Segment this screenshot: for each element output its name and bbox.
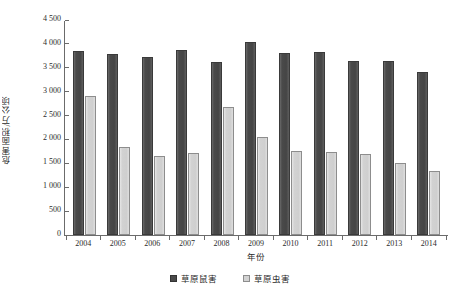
bar-insect-2006[interactable]	[154, 156, 165, 235]
x-axis-tick-label-2010: 2010	[273, 237, 308, 251]
y-axis-tick-label: 1 000	[43, 181, 61, 190]
bar-chart-figure: 危害面积/万公顷 05001 0001 5002 0002 5003 0003 …	[0, 0, 459, 298]
bar-group	[101, 21, 135, 235]
y-axis-tick-label: 4 000	[43, 38, 61, 47]
x-axis-tick-label-2009: 2009	[239, 237, 274, 251]
x-axis-tick-label-2012: 2012	[342, 237, 377, 251]
bar-rodent-2010[interactable]	[279, 53, 290, 236]
y-axis-tick-label: 2 000	[43, 133, 61, 142]
bar-rodent-2009[interactable]	[245, 42, 256, 236]
x-axis-title: 年份	[64, 250, 448, 262]
legend-item-insect[interactable]: 草原虫害	[243, 272, 290, 284]
x-axis-tick-label-2013: 2013	[377, 237, 412, 251]
x-axis-tick-label-2005: 2005	[101, 237, 136, 251]
y-axis-tick-label: 3 000	[43, 86, 61, 95]
bar-groups	[65, 21, 448, 235]
x-axis-tick-label-2007: 2007	[170, 237, 205, 251]
bar-insect-2007[interactable]	[188, 153, 199, 235]
bar-insect-2012[interactable]	[360, 154, 371, 235]
bar-group	[343, 21, 377, 235]
legend-item-rodent[interactable]: 草原鼠害	[170, 272, 217, 284]
x-axis-tick-label-2004: 2004	[66, 237, 101, 251]
bar-group	[377, 21, 411, 235]
y-axis-tick-label: 0	[57, 229, 61, 238]
y-axis-tick-label: 1 500	[43, 157, 61, 166]
plot-area: 05001 0001 5002 0002 5003 0003 5004 0004…	[64, 21, 448, 236]
bar-rodent-2012[interactable]	[348, 61, 359, 235]
bar-insect-2011[interactable]	[326, 152, 337, 235]
chart-legend: 草原鼠害草原虫害	[0, 272, 459, 284]
bar-insect-2004[interactable]	[85, 96, 96, 235]
y-axis-title: 危害面积/万公顷	[0, 40, 14, 220]
y-axis-tick-label: 3 500	[43, 62, 61, 71]
bar-insect-2010[interactable]	[291, 151, 302, 235]
bar-rodent-2007[interactable]	[176, 50, 187, 235]
legend-swatch-icon	[170, 275, 177, 282]
legend-label: 草原虫害	[254, 272, 290, 284]
x-axis-tick-label-2014: 2014	[411, 237, 446, 251]
x-axis-tick-label-2008: 2008	[204, 237, 239, 251]
bar-group	[170, 21, 204, 235]
bar-group	[412, 21, 446, 235]
bar-rodent-2013[interactable]	[383, 61, 394, 235]
bar-group	[274, 21, 308, 235]
bar-rodent-2004[interactable]	[73, 51, 84, 235]
bar-group	[239, 21, 273, 235]
x-axis-tick-label-2011: 2011	[308, 237, 343, 251]
y-axis-tick-label: 4 500	[43, 14, 61, 23]
bar-rodent-2014[interactable]	[417, 72, 428, 235]
bar-rodent-2011[interactable]	[314, 52, 325, 235]
bar-insect-2014[interactable]	[429, 171, 440, 235]
bar-group	[136, 21, 170, 235]
bar-group	[67, 21, 101, 235]
y-axis-tick-label: 2 500	[43, 110, 61, 119]
x-axis-tick-labels: 2004200520062007200820092010201120122013…	[64, 237, 448, 251]
bar-insect-2009[interactable]	[257, 137, 268, 235]
bar-insect-2013[interactable]	[395, 163, 406, 235]
bar-group	[205, 21, 239, 235]
bar-rodent-2006[interactable]	[142, 57, 153, 235]
bar-rodent-2005[interactable]	[107, 54, 118, 235]
bar-insect-2008[interactable]	[223, 107, 234, 235]
y-axis-tick-label: 500	[49, 205, 61, 214]
legend-swatch-icon	[243, 275, 250, 282]
y-axis-title-text: 危害面积/万公顷	[1, 95, 13, 164]
bar-rodent-2008[interactable]	[211, 62, 222, 235]
bar-insect-2005[interactable]	[119, 147, 130, 235]
bar-group	[308, 21, 342, 235]
x-axis-tick-label-2006: 2006	[135, 237, 170, 251]
legend-label: 草原鼠害	[181, 272, 217, 284]
